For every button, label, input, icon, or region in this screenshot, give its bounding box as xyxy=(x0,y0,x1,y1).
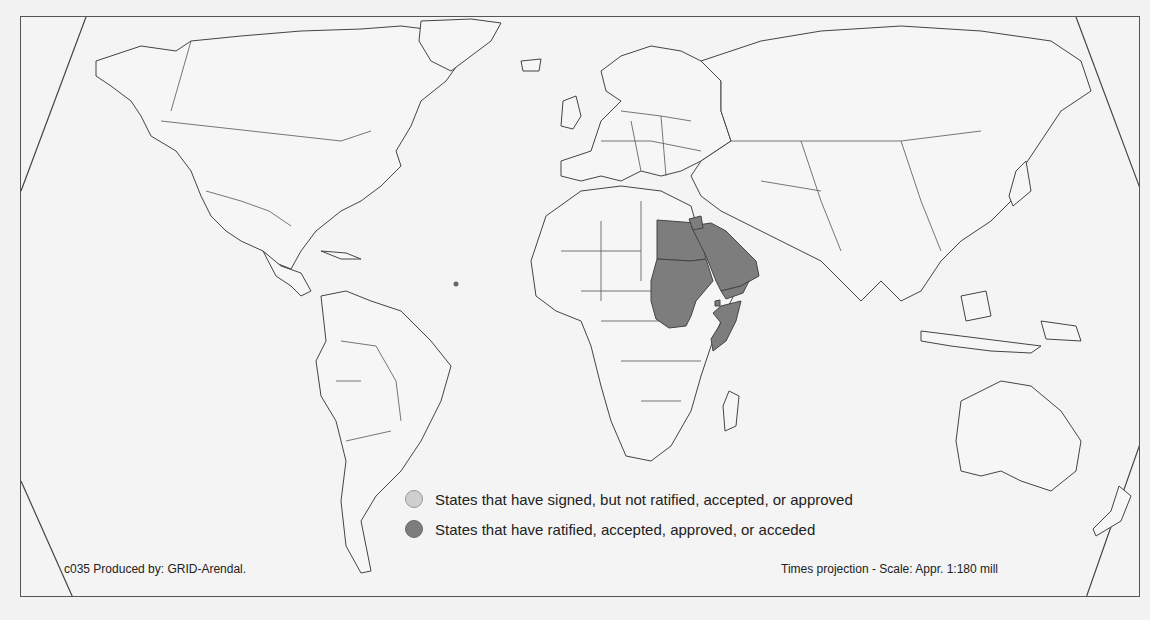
new-zealand xyxy=(1093,486,1131,536)
legend-label-signed: States that have signed, but not ratifie… xyxy=(435,491,853,508)
legend-label-ratified: States that have ratified, accepted, app… xyxy=(435,521,815,538)
credit-text: c035 Produced by: GRID-Arendal. xyxy=(64,562,246,576)
australia xyxy=(956,381,1081,491)
ratified-swatch-icon xyxy=(405,520,423,538)
island-speck xyxy=(454,282,459,287)
iceland xyxy=(521,59,541,71)
uk xyxy=(561,96,581,129)
indonesia xyxy=(921,331,1041,353)
new-guinea xyxy=(1041,321,1081,341)
state-djibouti[interactable] xyxy=(715,300,720,306)
map-legend: States that have signed, but not ratifie… xyxy=(405,484,853,544)
legend-item-signed: States that have signed, but not ratifie… xyxy=(405,484,853,514)
projection-limb-left xyxy=(21,17,86,597)
legend-item-ratified: States that have ratified, accepted, app… xyxy=(405,514,853,544)
cuba xyxy=(321,251,361,259)
projection-limb-right xyxy=(1076,17,1140,597)
signed-swatch-icon xyxy=(405,490,423,508)
scale-text: Times projection - Scale: Appr. 1:180 mi… xyxy=(781,562,998,576)
borneo xyxy=(961,291,991,321)
north-america xyxy=(96,26,471,269)
madagascar xyxy=(723,391,739,431)
